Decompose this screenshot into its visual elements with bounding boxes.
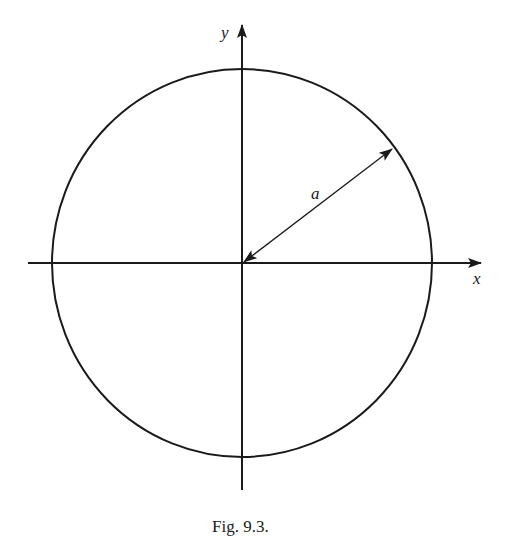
radius-label: a [311,184,320,203]
figure-caption: Fig. 9.3. [212,517,269,536]
radius-arrow [244,149,392,262]
y-axis-label: y [219,23,229,42]
x-axis-label: x [472,269,481,288]
circle-diagram: y x a Fig. 9.3. [0,0,507,538]
